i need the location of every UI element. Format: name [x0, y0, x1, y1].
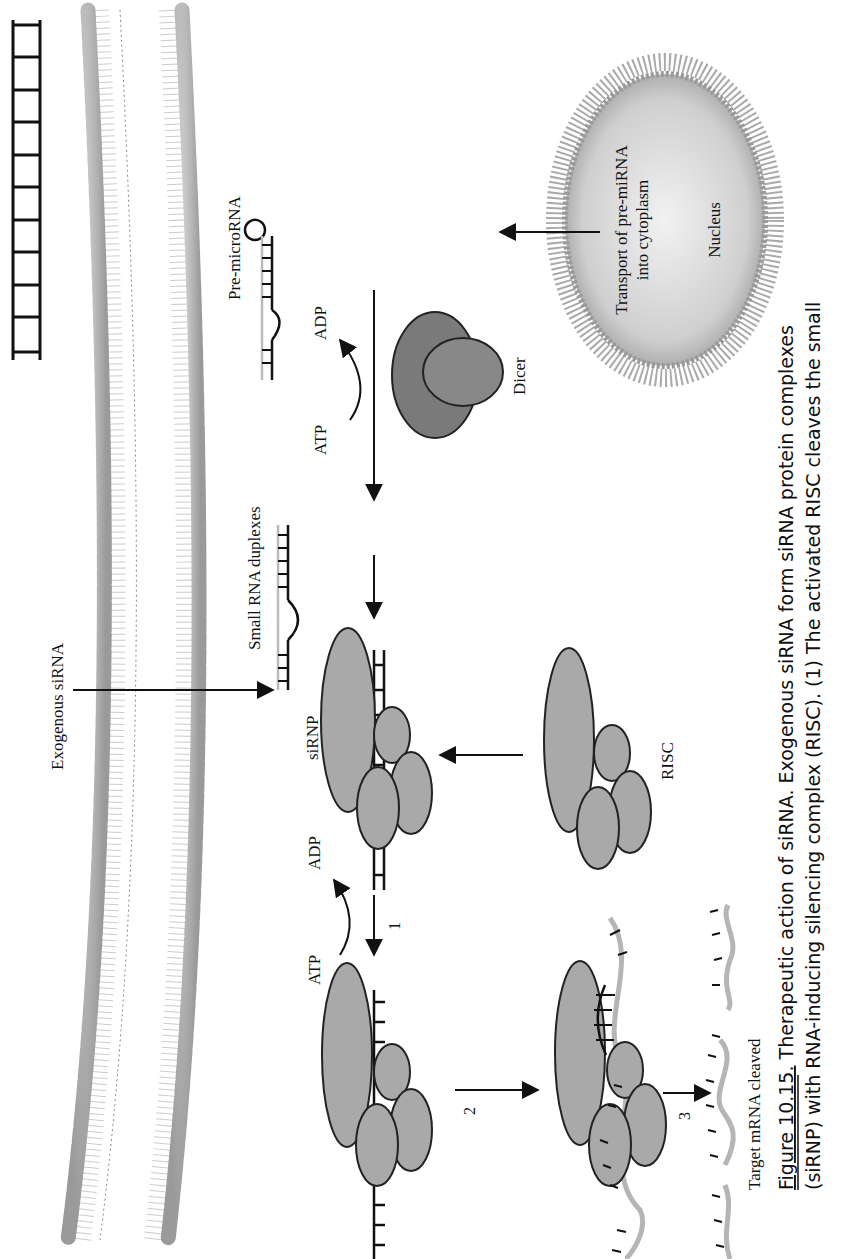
small-rna-duplexes-label: Small RNA duplexes	[245, 506, 264, 650]
pre-microrna-label: Pre-microRNA	[225, 195, 244, 300]
sirnp-complex	[321, 628, 432, 890]
caption-figure-number: Figure 10.15.	[775, 1066, 797, 1190]
transport-label-line2: into cytoplasm	[633, 180, 652, 281]
transport-label-line1: Transport of pre-miRNA	[612, 145, 631, 315]
step2-label: 2	[461, 1107, 478, 1115]
dicer-enzyme	[392, 312, 503, 438]
svg-text:Figure 10.15. Therapeutic acti: Figure 10.15. Therapeutic action of siRN…	[775, 325, 797, 1190]
activated-risc	[322, 963, 432, 1259]
sirnp-label: siRNP	[303, 716, 322, 760]
atp-label-bottom: ATP	[305, 955, 324, 985]
cell-membrane	[68, 10, 199, 1240]
step3-label: 3	[676, 1112, 693, 1120]
risc-label: RISC	[658, 742, 677, 780]
target-mrna-cleaved-label: Target mRNA cleaved	[745, 1038, 764, 1190]
pre-microrna-hairpin	[245, 220, 279, 380]
adp-label-top: ADP	[311, 306, 330, 340]
nucleus	[555, 62, 775, 378]
nucleus-label: Nucleus	[705, 202, 724, 258]
risc-complex	[544, 648, 651, 869]
caption-line1-text: Therapeutic action of siRNA. Exogenous s…	[775, 325, 797, 1065]
adp-label-bottom: ADP	[305, 836, 324, 870]
exogenous-sirna-label: Exogenous siRNA	[48, 642, 67, 770]
dicer-label: Dicer	[510, 357, 529, 395]
small-rna-duplex	[278, 525, 298, 690]
figure-caption: Figure 10.15. Therapeutic action of siRN…	[775, 302, 824, 1190]
atp-adp-curve-bottom	[334, 880, 350, 955]
exogenous-sirna-ladder	[13, 20, 40, 360]
risc-mrna-complex	[555, 918, 666, 1259]
step1-label: 1	[386, 922, 403, 930]
atp-label-top: ATP	[311, 425, 330, 455]
caption-line2: (siRNP) with RNA-inducing silencing comp…	[802, 302, 824, 1190]
sirna-figure: Exogenous siRNA Transport of pre-miRNA i…	[0, 0, 850, 1259]
atp-adp-curve-top	[340, 340, 360, 420]
cleaved-mrna	[706, 905, 733, 1259]
